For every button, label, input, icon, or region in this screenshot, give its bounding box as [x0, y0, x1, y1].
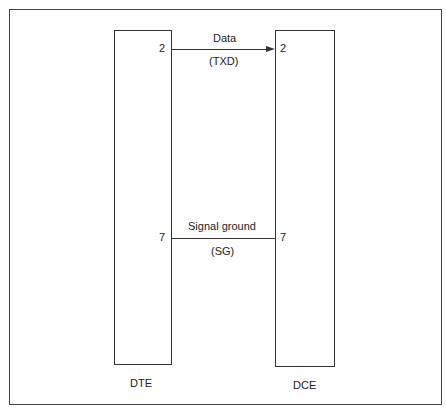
- signal-ground-label: Signal ground: [188, 220, 256, 232]
- signal-ground-line: [172, 238, 275, 239]
- dce-pin-7: 7: [280, 231, 286, 243]
- data-label: Data: [213, 32, 236, 44]
- dce-label: DCE: [293, 379, 316, 391]
- dce-pin-2: 2: [280, 42, 286, 54]
- txd-label: (TXD): [209, 55, 238, 67]
- dte-pin-7: 7: [159, 231, 165, 243]
- dte-pin-2: 2: [159, 42, 165, 54]
- sg-label: (SG): [211, 245, 234, 257]
- dte-label: DTE: [130, 377, 152, 389]
